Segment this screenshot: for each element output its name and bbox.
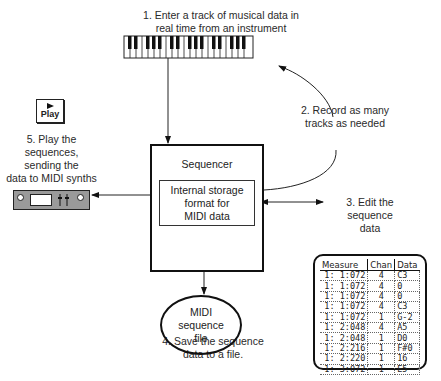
header-data[interactable]: Data [395, 259, 420, 271]
synth-knob-right-icon [77, 194, 84, 201]
midi-file-ellipse: MIDI sequence file [160, 295, 242, 355]
step3-line1: 3. Edit the [335, 196, 405, 209]
cell-measure[interactable]: 1: 1:072 [320, 312, 368, 322]
cell-measure[interactable]: 1: 1:072 [320, 291, 368, 301]
cell-measure[interactable]: 1: 1:072 [320, 281, 368, 291]
table-row[interactable]: 1: 1:07240 [320, 291, 420, 301]
synth-slider-icon [56, 193, 72, 207]
cell-chan[interactable]: 1 [368, 354, 395, 364]
file-line2: sequence [162, 319, 240, 332]
file-line1: MIDI [162, 306, 240, 319]
cell-measure[interactable]: 1: 2:220 [320, 354, 368, 364]
cell-chan[interactable]: 4 [368, 281, 395, 291]
event-list-window: Measure Chan Data 1: 1:0724C3 1: 1:07240… [313, 254, 427, 370]
cell-data[interactable]: C3 [395, 302, 420, 312]
table-row[interactable]: 1: 2:2161F#0 [320, 343, 420, 353]
cell-chan[interactable]: 1 [368, 343, 395, 353]
cell-data[interactable]: C3 [395, 271, 420, 281]
cell-data[interactable]: E5 [395, 364, 420, 374]
cell-data[interactable]: F#0 [395, 343, 420, 353]
cell-chan[interactable]: 1 [368, 312, 395, 322]
header-chan[interactable]: Chan [368, 259, 395, 271]
cell-measure[interactable]: 1: 1:072 [320, 271, 368, 281]
step2-line1: 2. Record as many [285, 104, 405, 117]
cell-data[interactable]: A5 [395, 322, 420, 332]
cell-data[interactable]: 0 [395, 281, 420, 291]
step3-label: 3. Edit the sequence data [335, 196, 405, 235]
table-row[interactable]: 1: 1:0724C3 [320, 302, 420, 312]
step1-label: 1. Enter a track of musical data in real… [110, 9, 332, 35]
step2-label: 2. Record as many tracks as needed [285, 104, 405, 130]
internal-storage-line2: format for [160, 197, 254, 210]
synth-knob-left-icon [17, 194, 24, 201]
table-row[interactable]: 1: 2:0484A5 [320, 322, 420, 332]
step1-line2: real time from an instrument [110, 22, 332, 35]
event-list-table: Measure Chan Data 1: 1:0724C3 1: 1:07240… [320, 259, 420, 375]
cell-measure[interactable]: 1: 2:216 [320, 343, 368, 353]
step1-line1: 1. Enter a track of musical data in [110, 9, 332, 22]
table-row[interactable]: 1: 1:0721G-2 [320, 312, 420, 322]
step2-line2: tracks as needed [285, 117, 405, 130]
cell-chan[interactable]: 1 [368, 364, 395, 374]
step5-line3: sending the [0, 159, 103, 172]
cell-measure[interactable]: 1: 1:072 [320, 302, 368, 312]
cell-measure[interactable]: 1: 2:048 [320, 322, 368, 332]
cell-data[interactable]: 16 [395, 354, 420, 364]
file-line3: file [162, 332, 240, 345]
step5-line4: data to MIDI synths [0, 172, 103, 185]
play-button[interactable]: Play [36, 99, 64, 123]
event-list-header-row: Measure Chan Data [320, 259, 420, 271]
header-measure[interactable]: Measure [320, 259, 368, 271]
cell-chan[interactable]: 4 [368, 322, 395, 332]
step5-label: 5. Play the sequences, sending the data … [0, 133, 103, 185]
internal-storage-line1: Internal storage [160, 184, 254, 197]
piano-keyboard-icon [124, 36, 253, 58]
cell-chan[interactable]: 4 [368, 302, 395, 312]
sequencer-box: Sequencer Internal storage format for MI… [150, 144, 264, 272]
cell-data[interactable]: 0 [395, 291, 420, 301]
cell-data[interactable]: G-2 [395, 312, 420, 322]
internal-storage-line3: MIDI data [160, 210, 254, 223]
step5-line2: sequences, [0, 146, 103, 159]
step3-line2: sequence [335, 209, 405, 222]
cell-data[interactable]: D0 [395, 333, 420, 343]
play-button-label: Play [41, 109, 60, 119]
sequencer-title: Sequencer [152, 158, 262, 170]
table-row[interactable]: 1: 2:0481D0 [320, 333, 420, 343]
cell-chan[interactable]: 1 [368, 333, 395, 343]
step3-line3: data [335, 222, 405, 235]
table-row[interactable]: 1: 1:07240 [320, 281, 420, 291]
cell-measure[interactable]: 1: 3:072 [320, 364, 368, 374]
cell-chan[interactable]: 4 [368, 271, 395, 281]
cell-chan[interactable]: 4 [368, 291, 395, 301]
table-row[interactable]: 1: 2:220116 [320, 354, 420, 364]
cell-measure[interactable]: 1: 2:048 [320, 333, 368, 343]
internal-storage-box: Internal storage format for MIDI data [159, 180, 255, 226]
step5-line1: 5. Play the [0, 133, 103, 146]
table-row[interactable]: 1: 1:0724C3 [320, 271, 420, 281]
table-row[interactable]: 1: 3:0721E5 [320, 364, 420, 374]
synth-display-icon [30, 194, 52, 206]
midi-synth-module-icon [13, 190, 90, 210]
